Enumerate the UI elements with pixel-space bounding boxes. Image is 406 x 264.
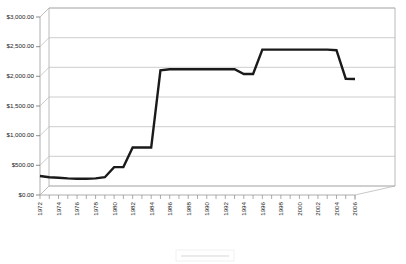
x-axis-label: 1994 [240,201,247,215]
x-axis-label: 1982 [129,201,136,215]
x-axis-label: 1974 [55,201,62,215]
chart-depth-edges [40,8,395,200]
x-axis-label: 1986 [166,201,173,215]
x-axis-labels: 1972197419761978198019821984198619881990… [36,201,358,215]
y-axis-label: $500.00 [12,161,35,168]
x-axis-label: 1998 [277,201,284,215]
y-axis-label: $2,000.00 [6,72,34,79]
x-axis-label: 2002 [314,201,321,215]
x-axis-label: 1988 [185,201,192,215]
line-chart: $3,000.00 $2,500.00 $2,000.00 $1,500.00 … [0,0,406,264]
series-group [40,50,355,179]
x-axis-label: 1990 [203,201,210,215]
x-axis-label: 1996 [259,201,266,215]
x-axis-label: 2006 [351,201,358,215]
x-axis-ticks [40,195,355,199]
x-axis-label: 1976 [73,201,80,215]
y-axis-label: $1,500.00 [6,102,34,109]
x-axis-label: 1984 [148,201,155,215]
chart-legend[interactable] [176,250,234,261]
x-axis-label: 2000 [296,201,303,215]
y-axis [40,17,355,195]
y-axis-label: $1,000.00 [6,131,34,138]
x-axis-label: 1978 [92,201,99,215]
y-axis-label: $0.00 [19,191,35,198]
series-line-1[interactable] [40,50,355,179]
y-axis-ticks [36,17,40,195]
x-axis-label: 1980 [111,201,118,215]
x-axis-label: 1972 [36,201,43,215]
y-axis-label: $3,000.00 [6,13,34,20]
y-axis-labels: $3,000.00 $2,500.00 $2,000.00 $1,500.00 … [6,13,34,198]
horizontal-gridlines [40,8,395,195]
y-axis-label: $2,500.00 [6,42,34,49]
x-axis-label: 1992 [222,201,229,215]
chart-container: $3,000.00 $2,500.00 $2,000.00 $1,500.00 … [0,0,406,264]
x-axis-label: 2004 [333,201,340,215]
